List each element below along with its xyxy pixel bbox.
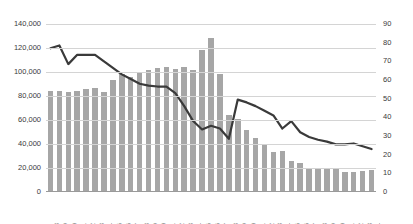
y-axis-left-tick: 40,000 (18, 140, 41, 148)
x-axis-tick: 2006 (303, 223, 310, 224)
gridline (46, 72, 376, 73)
x-axis-tick: 2008 (321, 223, 328, 224)
x-axis-tick: 1989 (152, 223, 159, 224)
x-axis-tick: 2007 (312, 223, 319, 224)
y-axis-left-tick: 60,000 (18, 116, 41, 124)
y-axis-left-tick: 140,000 (14, 20, 41, 28)
y-axis-right-tick: 0 (383, 188, 387, 196)
x-axis-tick: 2003 (276, 223, 283, 224)
y-axis-right-tick: 10 (383, 169, 391, 177)
x-axis-tick: 2000 (250, 223, 257, 224)
x-axis-tick: 2010 (339, 223, 346, 224)
y-axis-right-tick: 50 (383, 95, 391, 103)
x-axis-tick: 1982 (89, 223, 96, 224)
x-axis-tick: 1998 (232, 223, 239, 224)
y-axis-right-tick: 30 (383, 132, 391, 140)
x-axis-tick: 1988 (143, 223, 150, 224)
x-axis-tick: 1979 (62, 223, 69, 224)
y-axis-right-tick: 80 (383, 39, 391, 47)
x-axis-tick: 2002 (268, 223, 275, 224)
x-axis-tick: 1985 (116, 223, 123, 224)
plot-area (46, 24, 376, 192)
y-axis-left-tick: 100,000 (14, 68, 41, 76)
x-axis-tick: 1997 (223, 223, 230, 224)
x-axis-tick: 2005 (294, 223, 301, 224)
gridline (46, 120, 376, 121)
x-axis-tick: 1981 (80, 223, 87, 224)
x-axis-tick: 2012 (357, 223, 364, 224)
x-axis-tick: 1995 (205, 223, 212, 224)
gridline (46, 48, 376, 49)
line-series-svg (46, 24, 376, 192)
y-axis-right-tick: 60 (383, 76, 391, 84)
x-axis-tick: 2013 (366, 223, 373, 224)
y-axis-left-tick: 80,000 (18, 92, 41, 100)
x-axis-tick: 1994 (196, 223, 203, 224)
x-axis-tick: 1990 (160, 223, 167, 224)
x-axis-tick: 1983 (98, 223, 105, 224)
y-axis-right-tick: 70 (383, 57, 391, 65)
y-axis-left: 020,00040,00060,00080,000100,000120,0001… (0, 0, 44, 224)
gridline (46, 168, 376, 169)
x-axis-tick: 1996 (214, 223, 221, 224)
x-axis-tick: 2009 (330, 223, 337, 224)
line-series-path (50, 45, 371, 149)
x-axis-tick: 1991 (169, 223, 176, 224)
x-axis-tick: 1984 (107, 223, 114, 224)
x-axis-tick: 1999 (241, 223, 248, 224)
x-axis-tick: 2001 (259, 223, 266, 224)
y-axis-left-tick: 0 (37, 188, 41, 196)
y-axis-right-tick: 40 (383, 113, 391, 121)
y-axis-right-tick: 20 (383, 151, 391, 159)
y-axis-left-tick: 20,000 (18, 164, 41, 172)
x-axis-tick: 1993 (187, 223, 194, 224)
x-axis-tick: 1987 (134, 223, 141, 224)
y-axis-left-tick: 120,000 (14, 44, 41, 52)
x-axis-tick: 1980 (71, 223, 78, 224)
gridline (46, 144, 376, 145)
x-axis-tick: 1978 (53, 223, 60, 224)
gridline (46, 24, 376, 25)
y-axis-right: 0102030405060708090 (380, 0, 413, 224)
chart-container: 020,00040,00060,00080,000100,000120,0001… (0, 0, 413, 224)
x-axis-tick: 2004 (285, 223, 292, 224)
x-axis-tick: 1992 (178, 223, 185, 224)
x-axis-tick: 1986 (125, 223, 132, 224)
x-axis-tick: 2011 (348, 223, 355, 224)
x-axis-baseline (46, 191, 376, 192)
y-axis-right-tick: 90 (383, 20, 391, 28)
gridline (46, 96, 376, 97)
x-axis-labels: 1978197919801981198219831984198519861987… (46, 194, 376, 224)
